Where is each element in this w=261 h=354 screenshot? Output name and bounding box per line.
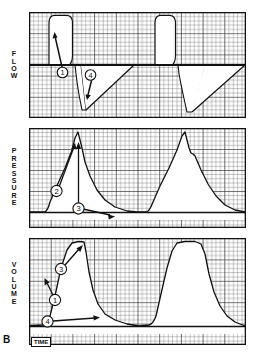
volume-callout-3-number: 3 xyxy=(59,265,63,274)
flow-axis-label: F L O W xyxy=(5,48,23,82)
flow-callout-4-number: 4 xyxy=(88,71,92,80)
pressure-plot: 2 3 xyxy=(29,128,246,228)
volume-axis-letter-u: U xyxy=(11,283,16,290)
pressure-panel: 2 3 xyxy=(29,128,246,228)
pressure-axis-letter-u: U xyxy=(11,184,16,191)
volume-axis-letter-v: V xyxy=(12,261,17,268)
volume-axis-letter-e: E xyxy=(12,298,17,305)
respiratory-waveform-figure: 1 4 F L O W xyxy=(0,0,261,354)
volume-plot: 3 1 4 xyxy=(29,238,246,345)
pressure-axis-letter-r2: R xyxy=(11,192,16,199)
volume-axis-label: V O L U M E xyxy=(5,258,23,308)
pressure-axis-letter-e2: E xyxy=(12,199,17,206)
figure-panel-letter: B xyxy=(3,334,10,345)
flow-plot: 1 4 xyxy=(29,12,246,118)
pressure-axis-letter-s2: S xyxy=(12,177,17,184)
flow-axis-letter-w: W xyxy=(11,72,18,79)
flow-axis-letter-l: L xyxy=(12,58,16,65)
volume-axis-letter-l: L xyxy=(12,276,16,283)
volume-callout-4-number: 4 xyxy=(45,317,49,326)
pressure-axis-letter-e1: E xyxy=(12,162,17,169)
pressure-axis-letter-p: P xyxy=(12,147,17,154)
pressure-axis-letter-r1: R xyxy=(11,155,16,162)
flow-axis-letter-f: F xyxy=(12,50,16,57)
volume-callout-1-number: 1 xyxy=(53,296,57,305)
volume-axis-letter-m: M xyxy=(11,290,17,297)
flow-inspiratory-block-2 xyxy=(155,15,176,65)
pressure-callout-3-number: 3 xyxy=(76,204,80,213)
flow-inspiratory-block-1 xyxy=(49,15,73,65)
pressure-axis-label: P R E S S U R E xyxy=(5,144,23,210)
flow-callout-1-number: 1 xyxy=(60,68,64,77)
pressure-axis-letter-s1: S xyxy=(12,170,17,177)
pressure-callout-2-number: 2 xyxy=(54,187,58,196)
flow-axis-letter-o: O xyxy=(11,65,16,72)
time-axis-label: TIME xyxy=(31,337,51,347)
flow-panel: 1 4 xyxy=(29,12,246,118)
volume-panel: 3 1 4 xyxy=(29,238,246,345)
volume-axis-letter-o: O xyxy=(11,268,16,275)
